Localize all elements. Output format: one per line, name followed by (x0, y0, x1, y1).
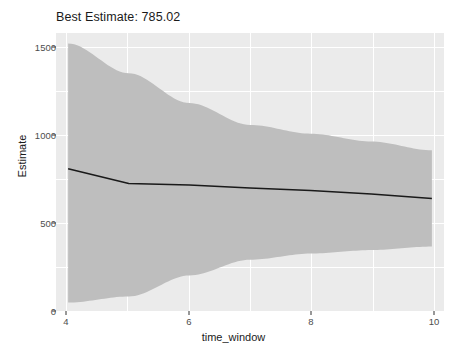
y-axis-title: Estimate (16, 106, 28, 206)
chart-title: Best Estimate: 785.02 (56, 10, 180, 24)
ytick-label-1500: 1500 (35, 42, 56, 53)
ytick-label-1000: 1000 (35, 130, 56, 141)
xtick-mark-4 (66, 311, 67, 315)
xtick-mark-8 (311, 311, 312, 315)
chart-container: Best Estimate: 785.02 1500 1000 500 0 4 (0, 0, 467, 354)
xtick-label-8: 8 (308, 316, 313, 327)
ytick-label-500: 500 (40, 218, 56, 229)
plot-panel (56, 33, 444, 311)
xtick-label-10: 10 (429, 316, 440, 327)
xtick-mark-10 (434, 311, 435, 315)
x-axis-title: time_window (0, 331, 467, 343)
ytick-label-0: 0 (51, 306, 56, 317)
xtick-label-4: 4 (63, 316, 68, 327)
xtick-mark-6 (189, 311, 190, 315)
confidence-ribbon (68, 44, 432, 303)
xtick-label-6: 6 (186, 316, 191, 327)
plot-geometry (56, 33, 444, 311)
